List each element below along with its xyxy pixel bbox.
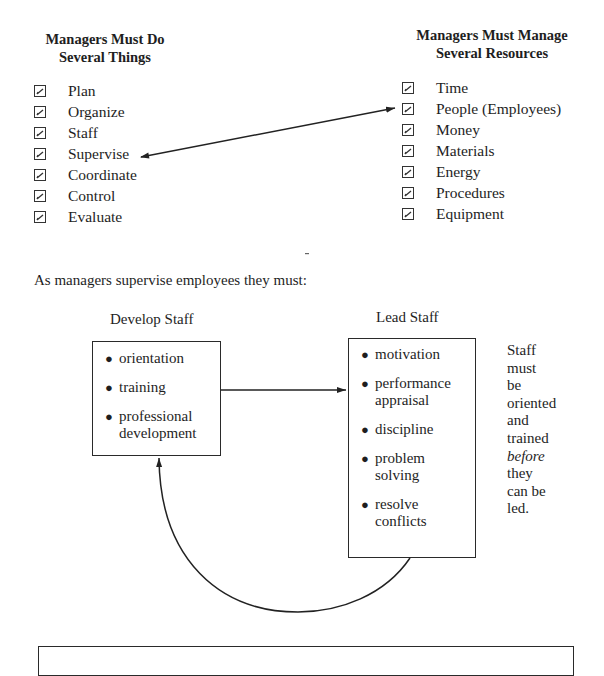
- checkbox-checked-icon: [402, 145, 414, 157]
- bullet-item: ●problem solving: [361, 450, 433, 484]
- item-label: Plan: [68, 82, 96, 100]
- heading-line: Managers Must Do: [22, 30, 188, 48]
- checkbox-checked-icon: [402, 187, 414, 199]
- list-item: Plan: [34, 80, 137, 101]
- note-line: and: [507, 412, 556, 430]
- tasks-list: Plan Organize Staff Supervise Coordinate…: [34, 80, 137, 227]
- note-line: they: [507, 465, 556, 483]
- item-label: Control: [68, 187, 115, 205]
- list-item: People (Employees): [402, 98, 561, 119]
- right-column-heading: Managers Must Manage Several Resources: [392, 26, 592, 62]
- left-column-heading: Managers Must Do Several Things: [22, 30, 188, 66]
- item-label: Staff: [68, 124, 98, 142]
- develop-staff-box: ●orientation ●training ●professional dev…: [92, 341, 221, 456]
- bullet-icon: ●: [361, 421, 375, 438]
- checkbox-checked-icon: [402, 82, 414, 94]
- list-item: Time: [402, 77, 561, 98]
- bullet-icon: ●: [361, 450, 375, 484]
- checkbox-checked-icon: [402, 124, 414, 136]
- item-label: Equipment: [436, 205, 504, 223]
- item-label: Coordinate: [68, 166, 137, 184]
- item-label: Energy: [436, 163, 480, 181]
- bullet-item: ●resolve conflicts: [361, 496, 433, 530]
- note-line: be: [507, 377, 556, 395]
- list-item: Materials: [402, 140, 561, 161]
- list-item: Coordinate: [34, 164, 137, 185]
- bottom-empty-box: [38, 646, 574, 676]
- item-label: Money: [436, 121, 480, 139]
- item-label: Supervise: [68, 145, 129, 163]
- item-label: Materials: [436, 142, 495, 160]
- item-label: Time: [436, 79, 468, 97]
- bullet-text: professional development: [119, 408, 216, 442]
- bullet-text: orientation: [119, 350, 184, 367]
- bullet-text: resolve conflicts: [375, 496, 433, 530]
- note-emphasis: before: [507, 448, 545, 464]
- bullet-text: performance appraisal: [375, 375, 457, 409]
- heading-line: Several Things: [22, 48, 188, 66]
- bullet-icon: ●: [105, 379, 119, 396]
- item-label: Organize: [68, 103, 125, 121]
- checkbox-checked-icon: [34, 169, 46, 181]
- note-line: led.: [507, 500, 556, 518]
- checkbox-checked-icon: [34, 211, 46, 223]
- note-line: can be: [507, 483, 556, 501]
- list-item: Control: [34, 185, 137, 206]
- list-item: Staff: [34, 122, 137, 143]
- note-line: trained: [507, 430, 556, 448]
- lead-staff-box: ●motivation ●performance appraisal ●disc…: [348, 338, 476, 558]
- note-line: oriented: [507, 395, 556, 413]
- develop-staff-title: Develop Staff: [110, 311, 193, 328]
- checkbox-checked-icon: [402, 166, 414, 178]
- item-label: Evaluate: [68, 208, 122, 226]
- side-note: Staff must be oriented and trained befor…: [507, 342, 556, 518]
- item-label: Procedures: [436, 184, 505, 202]
- bullet-icon: ●: [361, 375, 375, 409]
- checkbox-checked-icon: [34, 85, 46, 97]
- bullet-item: ●professional development: [105, 408, 216, 442]
- resources-list: Time People (Employees) Money Materials …: [402, 77, 561, 224]
- checkbox-checked-icon: [34, 148, 46, 160]
- bullet-icon: ●: [361, 496, 375, 530]
- checkbox-checked-icon: [34, 106, 46, 118]
- checkbox-checked-icon: [402, 103, 414, 115]
- note-line: must: [507, 360, 556, 378]
- heading-line: Several Resources: [392, 44, 592, 62]
- list-item: Money: [402, 119, 561, 140]
- list-item: Equipment: [402, 203, 561, 224]
- bullet-item: ●motivation: [361, 346, 471, 363]
- list-item: Supervise: [34, 143, 137, 164]
- list-item: Energy: [402, 161, 561, 182]
- list-item: Procedures: [402, 182, 561, 203]
- list-item: Organize: [34, 101, 137, 122]
- bullet-icon: ●: [105, 408, 119, 442]
- bullet-text: motivation: [375, 346, 440, 363]
- note-line: Staff: [507, 342, 556, 360]
- item-label: People (Employees): [436, 100, 561, 118]
- checkbox-checked-icon: [34, 127, 46, 139]
- bullet-item: ●performance appraisal: [361, 375, 457, 409]
- checkbox-checked-icon: [402, 208, 414, 220]
- bullet-text: discipline: [375, 421, 433, 438]
- bullet-item: ●orientation: [105, 350, 216, 367]
- lead-staff-title: Lead Staff: [376, 309, 439, 326]
- intro-text: As managers supervise employees they mus…: [34, 272, 307, 289]
- checkbox-checked-icon: [34, 190, 46, 202]
- supervise-people-arrow: [141, 108, 395, 157]
- bullet-text: training: [119, 379, 166, 396]
- bullet-item: ●discipline: [361, 421, 471, 438]
- bullet-icon: ●: [361, 346, 375, 363]
- bullet-icon: ●: [105, 350, 119, 367]
- bullet-text: problem solving: [375, 450, 433, 484]
- bullet-item: ●training: [105, 379, 216, 396]
- heading-line: Managers Must Manage: [392, 26, 592, 44]
- list-item: Evaluate: [34, 206, 137, 227]
